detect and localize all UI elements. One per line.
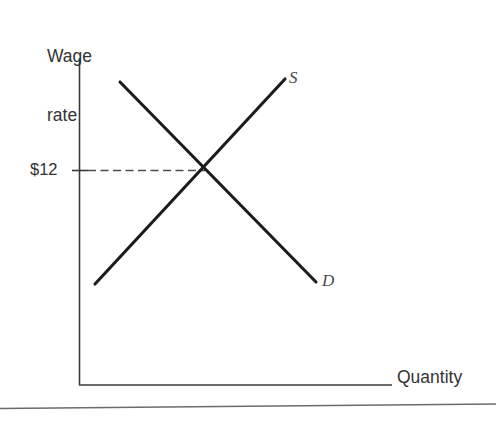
equilibrium-price-label: $12 <box>30 160 58 178</box>
demand-curve <box>120 82 316 282</box>
x-axis-label: Quantity <box>397 368 462 388</box>
demand-curve-label: D <box>322 271 334 290</box>
y-axis-label-line2: rate <box>47 106 92 126</box>
supply-curve-label: S <box>289 68 298 87</box>
footer-rule <box>0 404 496 409</box>
y-axis-label-line1: Wage <box>47 47 92 67</box>
y-axis-label: Wage rate <box>47 8 92 165</box>
wage-supply-demand-figure: Wage rate Quantity $12 S D <box>0 0 496 421</box>
supply-curve <box>95 79 285 284</box>
